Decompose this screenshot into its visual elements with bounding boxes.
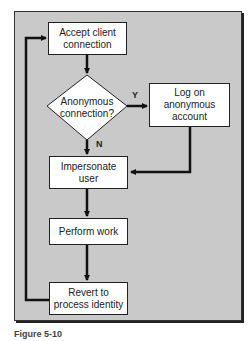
revert-to-process-identity-box: Revert toprocess identity	[49, 282, 128, 315]
log-on-anonymous-account-box: Log onanonymousaccount	[149, 83, 230, 127]
node-label-line: Accept client	[59, 27, 116, 38]
accept-client-connection-box: Accept clientconnection	[48, 22, 127, 55]
node-label-line: user	[79, 173, 98, 184]
node-label-line: Impersonate	[61, 161, 117, 172]
node-label-line: process identity	[54, 299, 123, 310]
anonymous-connection-decision: Anonymousconnection?	[55, 96, 119, 120]
node-label-line: Perform work	[59, 226, 118, 238]
yes-label: Y	[132, 90, 138, 100]
impersonate-user-box: Impersonateuser	[49, 156, 128, 189]
node-label-line: account	[172, 111, 207, 122]
node-label-line: anonymous	[164, 99, 216, 110]
no-label: N	[96, 139, 103, 149]
perform-work-box: Perform work	[49, 218, 128, 245]
node-label-line: Revert to	[68, 287, 109, 298]
node-label-line: connection?	[60, 108, 114, 119]
node-label-line: Anonymous	[61, 96, 114, 107]
node-label-line: Log on	[174, 87, 205, 98]
figure-caption: Figure 5-10	[14, 329, 62, 339]
node-label-line: connection	[63, 39, 111, 50]
